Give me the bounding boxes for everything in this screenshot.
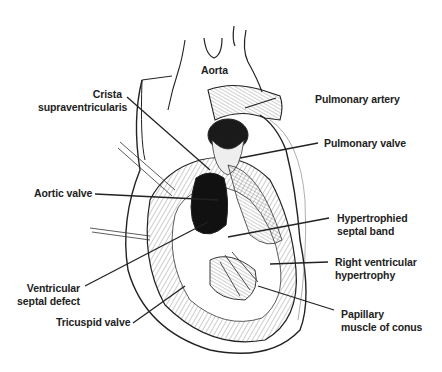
- label-papillary-line2: muscle of conus: [341, 321, 422, 334]
- label-papillary-line1: Papillary: [341, 308, 422, 321]
- leader-pulmonary-valve: [240, 143, 318, 158]
- label-right-ventricular-hypertrophy: Right ventricular hypertrophy: [335, 256, 417, 282]
- label-vsd-line2: septal defect: [10, 295, 80, 308]
- label-hypertrophied-septal-band: Hypertrophied septal band: [337, 212, 407, 238]
- label-pulmonary-valve: Pulmonary valve: [324, 137, 406, 150]
- label-vsd-line1: Ventricular: [10, 282, 80, 295]
- label-aorta: Aorta: [201, 64, 228, 77]
- label-aortic-valve: Aortic valve: [34, 187, 92, 200]
- label-crista-supraventricularis: Crista supraventricularis: [38, 88, 122, 114]
- label-rvh-line1: Right ventricular: [335, 256, 417, 269]
- label-papillary-muscle: Papillary muscle of conus: [341, 308, 422, 334]
- label-hypertrophied-line1: Hypertrophied: [337, 212, 407, 225]
- heart-diagram: Aorta Crista supraventricularis Pulmonar…: [0, 0, 442, 372]
- label-hypertrophied-line2: septal band: [337, 225, 407, 238]
- label-crista-line1: Crista: [38, 88, 122, 101]
- label-tricuspid-valve: Tricuspid valve: [56, 316, 130, 329]
- label-pulmonary-artery: Pulmonary artery: [315, 93, 400, 106]
- label-crista-line2: supraventricularis: [38, 101, 122, 114]
- label-rvh-line2: hypertrophy: [335, 269, 417, 282]
- label-ventricular-septal-defect: Ventricular septal defect: [10, 282, 80, 308]
